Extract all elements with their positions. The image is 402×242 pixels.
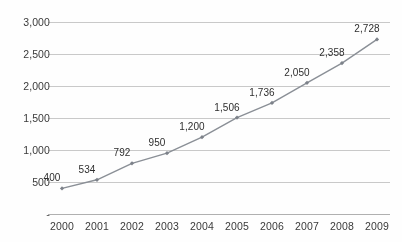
x-tick-label-2003: 2003	[155, 220, 179, 232]
x-tick-label-2004: 2004	[190, 220, 214, 232]
x-tick-label-2007: 2007	[295, 220, 319, 232]
x-tick-label-2008: 2008	[330, 220, 354, 232]
data-point-label: 1,506	[214, 101, 240, 112]
series-polyline	[62, 39, 377, 188]
x-tick-label-2002: 2002	[120, 220, 144, 232]
x-tick-label-2005: 2005	[225, 220, 249, 232]
data-point-marker[interactable]	[165, 151, 169, 155]
data-point-label: 792	[114, 147, 131, 158]
x-tick-label-2000: 2000	[50, 220, 74, 232]
data-point-label: 950	[149, 137, 166, 148]
x-tick-label-2001: 2001	[85, 220, 109, 232]
data-point-label: 1,736	[249, 86, 275, 97]
data-point-label: 400	[44, 172, 61, 183]
data-point-label: 2,050	[284, 66, 310, 77]
plot-area: 3,000 2,500 2,000 1,500 1,000 500 - 2000…	[0, 0, 402, 242]
data-point-marker[interactable]	[130, 161, 134, 165]
data-point-label: 1,200	[179, 121, 205, 132]
x-tick-label-2006: 2006	[260, 220, 284, 232]
data-point-label: 534	[79, 163, 96, 174]
line-chart: 3,000 2,500 2,000 1,500 1,000 500 - 2000…	[0, 0, 402, 242]
data-point-label: 2,728	[354, 23, 380, 34]
data-point-label: 2,358	[319, 47, 345, 58]
x-tick-label-2009: 2009	[365, 220, 389, 232]
data-point-marker[interactable]	[60, 186, 64, 190]
